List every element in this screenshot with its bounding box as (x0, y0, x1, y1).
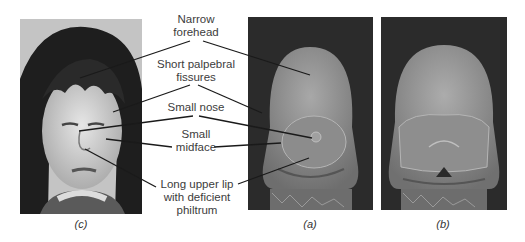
leader-lines (0, 0, 525, 242)
label-line: Small (163, 128, 229, 141)
label-line: Narrow (160, 13, 232, 26)
label-line: Short palpebral (148, 58, 244, 71)
label-line: Long upper lip (150, 178, 244, 191)
label-small-midface: Small midface (163, 128, 229, 154)
label-long-upper-lip: Long upper lip with deficient philtrum (150, 178, 244, 217)
label-narrow-forehead: Narrow forehead (160, 13, 232, 39)
label-small-nose: Small nose (155, 101, 237, 114)
label-line: forehead (160, 26, 232, 39)
label-line: midface (163, 141, 229, 154)
label-short-palpebral-fissures: Short palpebral fissures (148, 58, 244, 84)
label-line: fissures (148, 71, 244, 84)
label-line: philtrum (150, 204, 244, 217)
label-line: Small nose (155, 101, 237, 114)
label-line: with deficient (150, 191, 244, 204)
